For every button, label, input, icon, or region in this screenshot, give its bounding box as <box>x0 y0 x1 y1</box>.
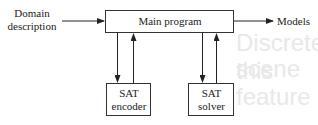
solver-line1: SAT <box>189 87 234 100</box>
main-program-label: Main program <box>106 15 234 28</box>
encoder-line2: encoder <box>107 100 151 113</box>
input-label: Domain description <box>4 7 60 33</box>
encoder-line1: SAT <box>107 87 151 100</box>
sat-encoder-label: SAT encoder <box>107 87 151 113</box>
input-label-line1: Domain <box>4 7 60 20</box>
input-label-line2: description <box>4 20 60 33</box>
sat-solver-label: SAT solver <box>189 87 234 113</box>
solver-line2: solver <box>189 100 234 113</box>
output-label: Models <box>277 15 310 28</box>
